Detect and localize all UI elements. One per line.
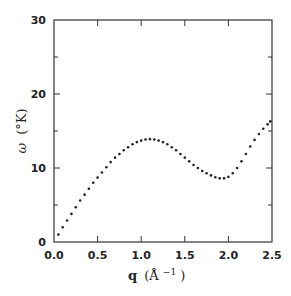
data-point <box>175 149 178 152</box>
data-point <box>197 167 200 170</box>
data-point <box>223 177 226 180</box>
data-point <box>179 153 182 156</box>
data-point <box>166 143 169 146</box>
data-point <box>92 182 95 185</box>
data-point <box>144 138 147 141</box>
data-points <box>57 120 271 236</box>
data-point <box>140 139 143 142</box>
data-point <box>70 213 73 216</box>
tick-labels: 0.00.51.01.52.02.50102030 <box>31 14 282 262</box>
data-point <box>96 176 99 179</box>
y-tick-label: 10 <box>31 162 47 175</box>
data-point <box>205 172 208 175</box>
svg-text:ω (°K): ω (°K) <box>14 108 29 153</box>
x-tick-label: 2.5 <box>262 249 282 262</box>
x-tick-label: 1.5 <box>175 249 195 262</box>
data-point <box>105 166 108 169</box>
data-point <box>218 177 221 180</box>
data-point <box>61 226 64 229</box>
data-point <box>249 145 252 148</box>
x-axis-label-exp: −1 <box>163 267 176 277</box>
data-point <box>75 206 78 209</box>
data-point <box>79 199 82 202</box>
y-tick-label: 0 <box>38 236 46 249</box>
axis-ticks <box>54 20 272 242</box>
plot-border <box>54 20 272 242</box>
y-axis-label: ω (°K) <box>14 108 29 153</box>
data-point <box>192 164 195 167</box>
x-tick-label: 2.0 <box>219 249 239 262</box>
x-axis-label-close: ) <box>180 268 185 283</box>
data-point <box>136 141 139 144</box>
data-point <box>227 176 230 179</box>
data-point <box>253 139 256 142</box>
data-point <box>122 149 125 152</box>
data-point <box>262 127 265 130</box>
y-axis-label-main: ω <box>14 143 29 154</box>
x-tick-label: 0.5 <box>88 249 108 262</box>
data-point <box>101 171 104 174</box>
data-point <box>109 161 112 164</box>
data-point <box>170 146 173 149</box>
data-point <box>188 160 191 163</box>
y-axis-label-unit: (°K) <box>14 108 29 134</box>
data-point <box>210 174 213 177</box>
data-point <box>83 193 86 196</box>
x-tick-label: 1.0 <box>131 249 151 262</box>
x-tick-label: 0.0 <box>44 249 64 262</box>
data-point <box>258 133 261 136</box>
data-point <box>157 139 160 142</box>
data-point <box>162 141 165 144</box>
data-point <box>127 146 130 149</box>
x-axis-label: q (Å −1 ) <box>128 263 185 283</box>
data-point <box>266 123 269 126</box>
y-tick-label: 30 <box>31 14 47 27</box>
data-point <box>57 233 60 236</box>
data-point <box>88 187 91 190</box>
data-point <box>214 176 217 179</box>
y-tick-label: 20 <box>31 88 47 101</box>
x-axis-label-unit: (Å <box>144 268 159 283</box>
data-point <box>66 219 69 222</box>
data-point <box>231 172 234 175</box>
data-point <box>114 156 117 159</box>
data-point <box>240 160 243 163</box>
data-point <box>149 138 152 141</box>
x-axis-label-main: q <box>128 268 137 283</box>
dispersion-chart: 0.00.51.01.52.02.50102030 q (Å −1 ) ω (°… <box>0 0 291 296</box>
data-point <box>236 167 239 170</box>
data-point <box>184 156 187 159</box>
plot-frame <box>54 20 272 242</box>
data-point <box>131 143 134 146</box>
data-point <box>153 138 156 141</box>
data-point <box>201 170 204 173</box>
data-point <box>245 153 248 156</box>
data-point <box>118 153 121 156</box>
data-point <box>269 120 272 123</box>
